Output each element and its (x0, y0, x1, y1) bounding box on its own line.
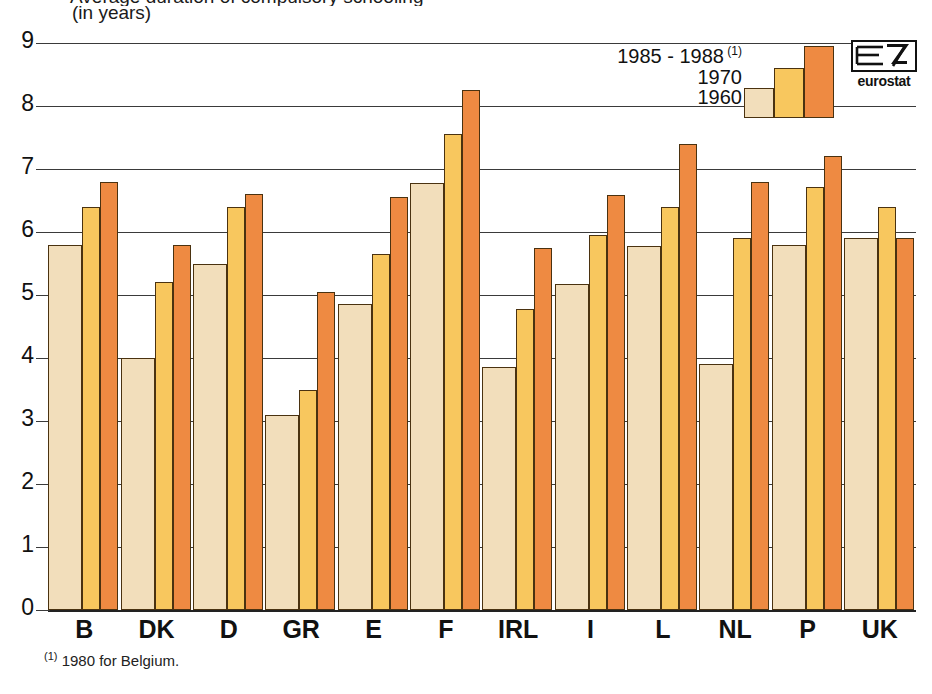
x-label-i: I (554, 615, 626, 644)
footnote-marker: (1) (44, 650, 57, 662)
bar-b-1985-1988 (100, 182, 118, 610)
bar-d-1985-1988 (245, 194, 263, 610)
bar-group-d (193, 43, 263, 610)
x-label-b: B (48, 615, 120, 644)
bar-group-l (627, 43, 697, 610)
legend-1960-swatch (744, 88, 774, 118)
bar-group-irl (482, 43, 552, 610)
bar-uk-1970 (878, 207, 896, 610)
x-label-dk: DK (120, 615, 192, 644)
bar-uk-1985-1988 (896, 238, 914, 610)
bar-p-1985-1988 (824, 156, 842, 610)
bar-irl-1985-1988 (534, 248, 552, 610)
bar-i-1985-1988 (607, 195, 625, 610)
bar-i-1960 (555, 284, 589, 610)
y-tick-label-5: 5 (8, 279, 34, 306)
footnote: (1) 1980 for Belgium. (44, 650, 179, 669)
bar-irl-1970 (516, 309, 534, 610)
eurostat-logo-text: eurostat (851, 73, 917, 89)
bar-dk-1960 (121, 358, 155, 610)
bar-l-1985-1988 (679, 144, 697, 610)
bar-p-1970 (806, 187, 824, 610)
legend-1985-1988-text: 1985 - 1988 (617, 45, 724, 67)
y-tick-label-3: 3 (8, 405, 34, 432)
x-label-irl: IRL (482, 615, 554, 644)
bar-gr-1985-1988 (317, 292, 335, 610)
bar-group-f (410, 43, 480, 610)
bar-gr-1960 (265, 415, 299, 610)
x-label-gr: GR (265, 615, 337, 644)
bar-nl-1960 (699, 364, 733, 610)
bar-f-1970 (444, 134, 462, 610)
x-axis-line (48, 610, 916, 612)
y-tick-mark-7 (36, 169, 50, 170)
y-tick-label-2: 2 (8, 468, 34, 495)
x-label-l: L (627, 615, 699, 644)
y-tick-label-6: 6 (8, 216, 34, 243)
legend-1960-label: 1960 (698, 86, 743, 109)
bar-dk-1985-1988 (173, 245, 191, 610)
bar-b-1970 (82, 207, 100, 610)
bar-f-1960 (410, 183, 444, 610)
bar-group-dk (121, 43, 191, 610)
chart-subtitle: (in years) (72, 2, 151, 24)
bar-nl-1985-1988 (751, 182, 769, 610)
x-label-d: D (193, 615, 265, 644)
bar-irl-1960 (482, 367, 516, 610)
x-label-nl: NL (699, 615, 771, 644)
bar-d-1970 (227, 207, 245, 610)
bar-i-1970 (589, 235, 607, 610)
y-tick-mark-8 (36, 106, 50, 107)
bar-l-1970 (661, 207, 679, 610)
x-label-p: P (771, 615, 843, 644)
bar-group-e (338, 43, 408, 610)
y-tick-label-9: 9 (8, 27, 34, 54)
y-tick-label-8: 8 (8, 90, 34, 117)
x-label-e: E (337, 615, 409, 644)
bar-group-b (48, 43, 118, 610)
legend-1960-text: 1960 (698, 86, 743, 108)
bar-group-nl (699, 43, 769, 610)
bar-p-1960 (772, 245, 806, 610)
y-tick-label-1: 1 (8, 531, 34, 558)
eurostat-glyph-icon (853, 42, 915, 70)
bar-dk-1970 (155, 282, 173, 610)
legend-1970-swatch (774, 68, 804, 118)
y-tick-mark-9 (36, 43, 50, 44)
bar-e-1970 (372, 254, 390, 610)
x-label-uk: UK (844, 615, 916, 644)
y-tick-mark-6 (36, 232, 50, 233)
legend-1970-text: 1970 (698, 66, 743, 88)
bar-group-uk (844, 43, 914, 610)
bar-d-1960 (193, 264, 227, 611)
legend-1985-1988-swatch (804, 46, 834, 118)
bar-f-1985-1988 (462, 90, 480, 610)
bar-group-i (555, 43, 625, 610)
y-tick-mark-0 (36, 610, 50, 611)
legend-1985-1988-marker: (1) (724, 44, 742, 58)
eurostat-logo: eurostat (851, 40, 917, 92)
bar-gr-1970 (299, 390, 317, 611)
x-label-f: F (410, 615, 482, 644)
bar-l-1960 (627, 246, 661, 610)
bar-group-gr (265, 43, 335, 610)
bar-uk-1960 (844, 238, 878, 610)
legend-1985-1988-label: 1985 - 1988 (1) (617, 44, 742, 68)
bar-nl-1970 (733, 238, 751, 610)
bar-group-p (772, 43, 842, 610)
plot-area (48, 43, 916, 610)
bar-e-1960 (338, 304, 372, 610)
y-tick-label-7: 7 (8, 153, 34, 180)
bar-e-1985-1988 (390, 197, 408, 610)
chart-legend: 1985 - 1988 (1)19701960 (648, 43, 838, 118)
y-tick-label-4: 4 (8, 342, 34, 369)
y-tick-label-0: 0 (8, 594, 34, 621)
x-axis-labels: BDKDGREFIRLILNLPUK (48, 615, 916, 647)
bar-series-container (48, 43, 916, 610)
eurostat-logo-mark (851, 40, 917, 72)
bar-b-1960 (48, 245, 82, 610)
footnote-text: 1980 for Belgium. (62, 652, 180, 669)
